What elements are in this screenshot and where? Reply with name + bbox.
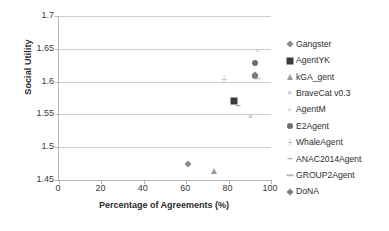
- y-gridline: [59, 147, 271, 148]
- legend-label: AgentYK: [296, 56, 330, 65]
- legend-label: ANAC2014Agent: [296, 155, 361, 164]
- triangle-icon: [283, 69, 296, 85]
- y-gridline: [59, 16, 271, 17]
- legend-label: E2Agent: [296, 122, 329, 131]
- data-point: [185, 161, 192, 168]
- y-tick-label: 1.5: [8, 142, 54, 151]
- plot-area: ××＋: [58, 16, 270, 180]
- data-point: [252, 73, 258, 79]
- legend-label: DoNA: [296, 187, 319, 196]
- y-gridline: [59, 114, 271, 115]
- y-tick-mark: [55, 114, 59, 115]
- y-tick-mark: [55, 82, 59, 83]
- square-icon: [283, 52, 296, 68]
- data-point: [252, 71, 259, 78]
- legend-label: AgentM: [296, 105, 326, 114]
- diamond-icon: [283, 36, 296, 52]
- legend-label: GROUP2Agent: [296, 171, 355, 180]
- y-tick-mark: [55, 147, 59, 148]
- data-point: [211, 168, 217, 174]
- x-tick-label: 0: [38, 184, 78, 193]
- x-tick-label: 40: [123, 184, 163, 193]
- legend-item[interactable]: ＋WhaleAgent: [283, 134, 389, 150]
- y-tick-label: 1.6: [8, 77, 54, 86]
- chart-legend: GangsterAgentYKkGA_gent×BraveCat v0.3×Ag…: [283, 36, 389, 200]
- plus-icon: ＋: [283, 134, 296, 150]
- legend-item[interactable]: AgentYK: [283, 52, 389, 68]
- legend-label: kGA_gent: [296, 73, 334, 82]
- legend-label: Gangster: [296, 40, 331, 49]
- legend-item[interactable]: kGA_gent: [283, 69, 389, 85]
- y-tick-mark: [55, 49, 59, 50]
- x-tick-label: 20: [80, 184, 120, 193]
- y-tick-label: 1.65: [8, 44, 54, 53]
- data-point: [253, 78, 260, 80]
- dash-long-icon: [283, 167, 296, 183]
- legend-item[interactable]: DoNA: [283, 184, 389, 200]
- y-tick-label: 1.55: [8, 109, 54, 118]
- y-gridline: [59, 180, 271, 181]
- circle-icon: [283, 118, 296, 134]
- data-point: [252, 60, 258, 66]
- cross-icon: ×: [283, 85, 296, 101]
- y-gridline: [59, 49, 271, 50]
- x-axis-title: Percentage of Agreements (%): [40, 200, 288, 210]
- x-axis-tick-labels: 020406080100: [58, 184, 270, 198]
- legend-item[interactable]: Gangster: [283, 36, 389, 52]
- legend-item[interactable]: ANAC2014Agent: [283, 151, 389, 167]
- legend-label: BraveCat v0.3: [296, 89, 350, 98]
- legend-item[interactable]: ×AgentM: [283, 102, 389, 118]
- y-tick-label: 1.45: [8, 175, 54, 184]
- cross-light-icon: ×: [283, 102, 296, 118]
- legend-item[interactable]: ×BraveCat v0.3: [283, 85, 389, 101]
- y-tick-label: 1.7: [8, 11, 54, 20]
- dash-icon: [283, 151, 296, 167]
- legend-label: WhaleAgent: [296, 138, 343, 147]
- diamond2-icon: [283, 184, 296, 200]
- data-point: [231, 98, 238, 105]
- data-point: [236, 105, 241, 107]
- legend-item[interactable]: GROUP2Agent: [283, 167, 389, 183]
- x-tick-label: 80: [208, 184, 248, 193]
- legend-item[interactable]: E2Agent: [283, 118, 389, 134]
- y-gridline: [59, 82, 271, 83]
- y-axis-tick-labels: 1.451.51.551.61.651.7: [6, 0, 54, 231]
- y-tick-mark: [55, 16, 59, 17]
- x-tick-label: 60: [165, 184, 205, 193]
- scatter-chart-figure: Social Utility 1.451.51.551.61.651.7 ××＋…: [0, 0, 389, 231]
